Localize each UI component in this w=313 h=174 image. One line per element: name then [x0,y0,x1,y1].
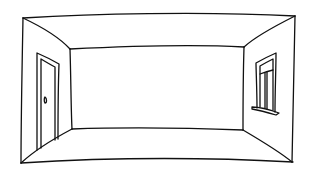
ceiling [23,13,295,49]
back-wall [70,47,244,130]
floor [21,128,293,163]
room-sketch: Line drawing of an empty room with a doo… [0,0,313,174]
right-wall [292,16,295,162]
door [37,53,59,150]
window [252,53,279,115]
room-drawing [0,0,313,174]
left-wall [21,18,23,163]
